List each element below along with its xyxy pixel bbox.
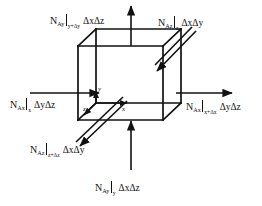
flux-evaluated-at: z+Δz (48, 153, 60, 159)
flux-label-bottom-left-expression: NAzz+ΔzΔxΔy (30, 143, 84, 159)
flux-label-top-expression: NAyy+ΔyΔxΔz (50, 14, 104, 30)
flux-area: ΔxΔz (83, 16, 104, 26)
flux-evaluated-at: y (113, 191, 116, 197)
evaluation-bar (202, 100, 203, 112)
flux-symbol-subscript: Ay (57, 20, 64, 27)
axis-label-x: x (122, 105, 125, 113)
flux-label-top: NAyy+ΔyΔxΔz (50, 14, 104, 30)
flux-label-left-expression: NAxxΔyΔz (10, 98, 55, 114)
flux-evaluated-at: z (176, 26, 178, 32)
cube-flux-diagram: NAyy+ΔyΔxΔz NAzzΔxΔy NAxxΔyΔz NAxx+ΔxΔyΔ… (0, 0, 262, 206)
flux-area: ΔxΔy (181, 18, 203, 28)
flux-label-bottom: NAyyΔxΔz (95, 181, 140, 197)
evaluation-bar (26, 98, 27, 110)
flux-evaluated-at: x+Δx (204, 110, 216, 116)
flux-area: ΔxΔz (119, 183, 140, 193)
evaluation-bar (111, 181, 112, 193)
flux-label-right-expression: NAxx+ΔxΔyΔz (186, 100, 241, 116)
evaluation-bar (46, 143, 47, 155)
evaluation-bar (66, 14, 67, 26)
flux-label-bottom-expression: NAyyΔxΔz (95, 181, 140, 197)
flux-evaluated-at: x (28, 108, 31, 114)
flux-symbol-subscript: Ax (17, 104, 25, 111)
flux-area: ΔyΔz (220, 102, 241, 112)
flux-symbol-subscript: Ay (102, 187, 109, 194)
flux-label-right: NAxx+ΔxΔyΔz (186, 100, 241, 116)
evaluation-bar (174, 16, 175, 28)
flux-label-top-right-expression: NAzzΔxΔy (158, 16, 203, 32)
axis-label-y: y (98, 85, 101, 93)
flux-evaluated-at: y+Δy (68, 24, 80, 30)
flux-label-left: NAxxΔyΔz (10, 98, 55, 114)
flux-label-top-right: NAzzΔxΔy (158, 16, 203, 32)
flux-label-bottom-left: NAzz+ΔzΔxΔy (30, 143, 84, 159)
coordinate-axes (84, 91, 127, 115)
flux-area: ΔxΔy (63, 145, 85, 155)
flux-symbol-subscript: Az (165, 22, 172, 29)
flux-symbol-subscript: Ax (193, 106, 201, 113)
flux-symbol-subscript: Az (37, 149, 44, 156)
flux-area: ΔyΔz (34, 100, 55, 110)
axis-label-z: z (83, 105, 86, 113)
